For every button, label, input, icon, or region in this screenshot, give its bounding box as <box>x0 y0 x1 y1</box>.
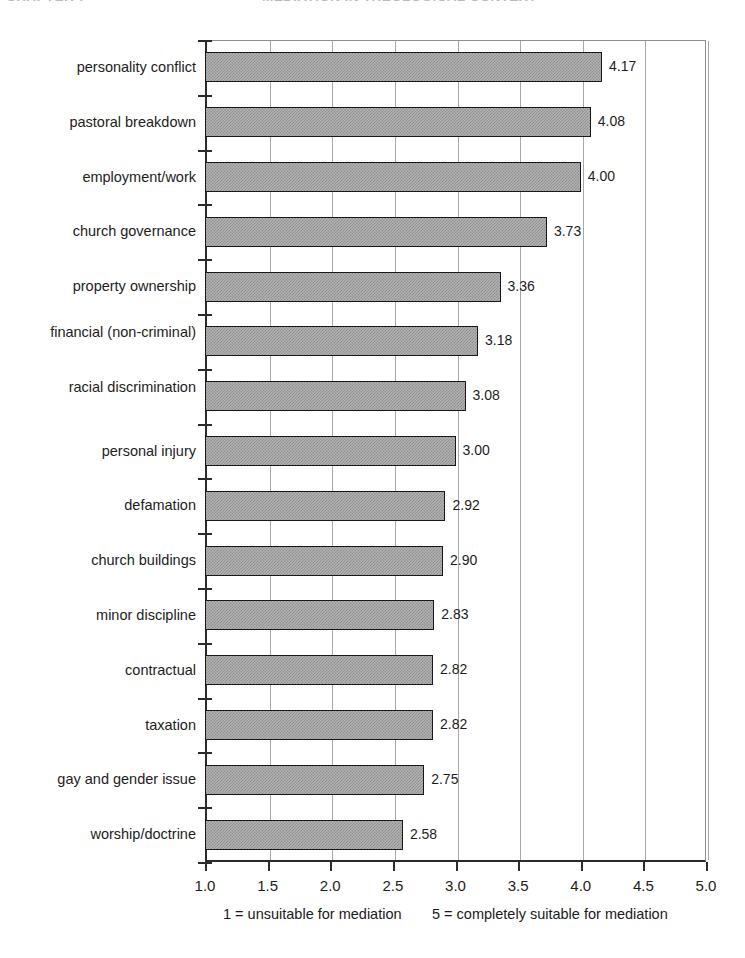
bar <box>205 436 456 466</box>
bar <box>205 107 591 137</box>
category-label: minor discipline <box>0 607 196 624</box>
y-axis-tick <box>198 424 212 426</box>
category-label: gay and gender issue <box>0 771 196 788</box>
category-label: defamation <box>0 497 196 514</box>
bar <box>205 765 424 795</box>
bar <box>205 272 501 302</box>
scale-caption-low: 1 = unsuitable for mediation <box>223 906 402 922</box>
category-label: worship/doctrine <box>0 826 196 843</box>
gridline <box>583 41 584 860</box>
bar-value-label: 2.83 <box>441 606 468 622</box>
bar <box>205 326 478 356</box>
x-axis-tick-label: 4.0 <box>570 877 591 894</box>
category-label: personality conflict <box>0 59 196 76</box>
category-label: financial (non-criminal) <box>0 324 196 341</box>
bar <box>205 381 466 411</box>
y-axis-tick <box>198 150 212 152</box>
y-axis-tick <box>198 259 212 261</box>
x-axis-tick-label: 3.5 <box>508 877 529 894</box>
x-axis-tick <box>205 862 207 871</box>
x-axis-tick-label: 5.0 <box>696 877 717 894</box>
x-axis-tick <box>456 862 458 871</box>
x-axis-tick-label: 3.0 <box>445 877 466 894</box>
bar-value-label: 2.92 <box>452 497 479 513</box>
bar-value-label: 4.00 <box>588 168 615 184</box>
x-axis-tick <box>330 862 332 871</box>
bar-value-label: 3.18 <box>485 332 512 348</box>
x-axis-tick-label: 2.0 <box>320 877 341 894</box>
bar-value-label: 3.36 <box>508 278 535 294</box>
bar <box>205 217 547 247</box>
bar-chart-figure: 4.17personality conflict4.08pastoral bre… <box>0 0 745 958</box>
bar-value-label: 3.73 <box>554 223 581 239</box>
x-axis-tick-label: 2.5 <box>382 877 403 894</box>
y-axis-tick <box>198 40 212 42</box>
bar-value-label: 2.82 <box>440 661 467 677</box>
x-axis-tick <box>518 862 520 871</box>
scale-caption: 1 = unsuitable for mediation 5 = complet… <box>205 906 706 928</box>
bar-value-label: 2.90 <box>450 552 477 568</box>
y-axis-tick <box>198 588 212 590</box>
x-axis-tick-label: 1.5 <box>257 877 278 894</box>
bar <box>205 546 443 576</box>
bar <box>205 162 581 192</box>
x-axis-tick <box>393 862 395 871</box>
y-axis-tick <box>198 314 212 316</box>
gridline <box>708 41 709 860</box>
gridline <box>645 41 646 860</box>
bar <box>205 491 445 521</box>
x-axis-tick <box>706 862 708 871</box>
bar <box>205 655 433 685</box>
category-label: taxation <box>0 717 196 734</box>
bar-value-label: 2.75 <box>431 771 458 787</box>
category-label: employment/work <box>0 169 196 186</box>
bar-value-label: 3.00 <box>463 442 490 458</box>
bar <box>205 820 403 850</box>
bar-value-label: 2.82 <box>440 716 467 732</box>
y-axis-tick <box>198 643 212 645</box>
y-axis-tick <box>198 698 212 700</box>
scale-caption-high: 5 = completely suitable for mediation <box>432 906 668 922</box>
category-label: contractual <box>0 662 196 679</box>
y-axis-tick <box>198 369 212 371</box>
y-axis-tick <box>198 478 212 480</box>
bar <box>205 710 433 740</box>
category-label: church governance <box>0 223 196 240</box>
bar <box>205 600 434 630</box>
y-axis-tick <box>198 204 212 206</box>
category-label: property ownership <box>0 278 196 295</box>
category-label: pastoral breakdown <box>0 114 196 131</box>
x-axis-tick-label: 1.0 <box>195 877 216 894</box>
x-axis-tick-label: 4.5 <box>633 877 654 894</box>
y-axis-tick <box>198 533 212 535</box>
x-axis-tick <box>268 862 270 871</box>
bar-value-label: 4.08 <box>598 113 625 129</box>
y-axis-tick <box>198 807 212 809</box>
x-axis-tick <box>581 862 583 871</box>
bar-value-label: 3.08 <box>473 387 500 403</box>
category-label: church buildings <box>0 552 196 569</box>
y-axis-tick <box>198 95 212 97</box>
bar <box>205 52 602 82</box>
bar-value-label: 2.58 <box>410 826 437 842</box>
category-label: racial discrimination <box>0 379 196 396</box>
category-label: personal injury <box>0 443 196 460</box>
y-axis-tick <box>198 752 212 754</box>
x-axis-tick <box>643 862 645 871</box>
bar-value-label: 4.17 <box>609 58 636 74</box>
